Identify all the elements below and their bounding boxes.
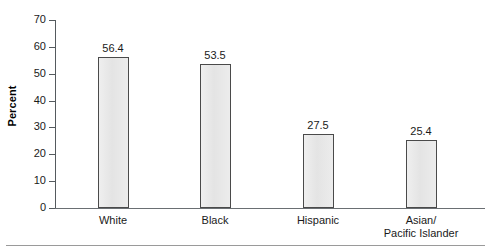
footer-divider <box>6 245 485 246</box>
y-axis-tick-label: 0 <box>16 202 46 213</box>
bar <box>98 57 129 208</box>
bar-value-label: 56.4 <box>83 42 143 54</box>
y-axis-tick-label: 70 <box>16 14 46 25</box>
y-axis-tick-label-text: 60 <box>20 41 46 52</box>
y-axis-tick-label: 50 <box>16 68 46 79</box>
x-axis-category-label: White <box>58 214 168 227</box>
plot-area: Percent 010203040506070 56.4White53.5Bla… <box>0 0 491 252</box>
y-axis-tick <box>49 154 55 155</box>
y-axis-tick-label: 30 <box>16 121 46 132</box>
y-axis-tick-label: 40 <box>16 95 46 106</box>
bar-value-label: 25.4 <box>391 125 451 137</box>
x-axis-category-label: Hispanic <box>263 214 373 227</box>
y-axis-tick-label-text: 40 <box>20 95 46 106</box>
y-axis-tick <box>49 20 55 21</box>
y-axis-tick-label-text: 30 <box>20 121 46 132</box>
x-axis-category-label: Asian/ Pacific Islander <box>366 214 476 240</box>
y-axis-tick <box>49 74 55 75</box>
y-axis-tick <box>49 47 55 48</box>
bar-value-label: 27.5 <box>288 119 348 131</box>
y-axis-tick-label-text: 50 <box>20 68 46 79</box>
y-axis-tick-label-text: 20 <box>20 148 46 159</box>
x-axis-category-label: Black <box>160 214 270 227</box>
bar-value-label: 53.5 <box>185 49 245 61</box>
y-axis-line <box>55 20 56 209</box>
y-axis-tick-label: 60 <box>16 41 46 52</box>
y-axis-tick <box>49 101 55 102</box>
y-axis-tick <box>49 181 55 182</box>
bar-chart-figure: Percent 010203040506070 56.4White53.5Bla… <box>0 0 491 252</box>
x-axis-line <box>55 208 485 209</box>
y-axis-tick-label: 20 <box>16 148 46 159</box>
y-axis-tick-label-text: 10 <box>20 175 46 186</box>
y-axis-tick <box>49 127 55 128</box>
bar <box>303 134 334 208</box>
bar <box>200 64 231 208</box>
y-axis-tick-label-text: 0 <box>20 202 46 213</box>
y-axis-tick-label: 10 <box>16 175 46 186</box>
y-axis-tick-label-text: 70 <box>20 14 46 25</box>
bar <box>406 140 437 208</box>
